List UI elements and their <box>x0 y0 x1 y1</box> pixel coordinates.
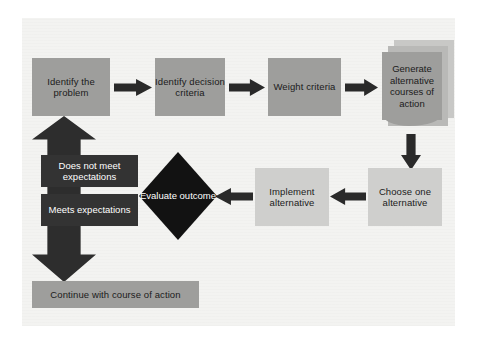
node-identify-problem-label: Identify the problem <box>32 76 110 99</box>
label-meets-expectations: Meets expectations <box>41 194 138 226</box>
diagram-canvas: Identify the problem Identify decision c… <box>0 0 477 345</box>
node-identify-criteria-label: Identify decision criteria <box>155 76 225 99</box>
label-does-not-meet-text: Does not meet expectations <box>41 160 138 183</box>
node-generate-alternatives[interactable]: Generate alternative courses of action <box>382 40 454 135</box>
node-identify-problem[interactable]: Identify the problem <box>32 58 110 116</box>
node-generate-alternatives-label: Generate alternative courses of action <box>382 63 442 109</box>
label-meets-text: Meets expectations <box>49 204 131 216</box>
node-choose-alternative-label: Choose one alternative <box>368 186 442 209</box>
label-does-not-meet-expectations: Does not meet expectations <box>41 155 138 187</box>
node-evaluate-outcome[interactable]: Evaluate outcome <box>139 152 217 240</box>
node-weight-criteria-label: Weight criteria <box>273 81 335 93</box>
doc-stack-front: Generate alternative courses of action <box>382 52 442 120</box>
node-evaluate-outcome-label: Evaluate outcome <box>139 152 217 240</box>
node-continue-with-course-of-action[interactable]: Continue with course of action <box>32 281 199 308</box>
node-choose-alternative[interactable]: Choose one alternative <box>368 168 442 226</box>
node-continue-label: Continue with course of action <box>50 289 180 301</box>
node-weight-criteria[interactable]: Weight criteria <box>268 58 341 116</box>
node-implement-alternative-label: Implement alternative <box>255 186 329 209</box>
node-implement-alternative[interactable]: Implement alternative <box>255 168 329 226</box>
node-identify-criteria[interactable]: Identify decision criteria <box>155 58 225 116</box>
